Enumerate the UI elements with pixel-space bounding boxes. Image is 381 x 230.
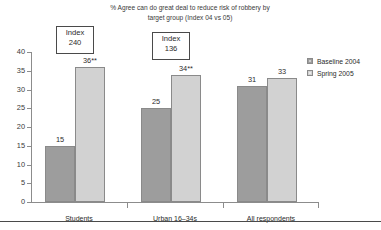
plot-area: 0510152025303540 1536**2534**3133 Studen… xyxy=(31,52,319,203)
bar-spring xyxy=(75,67,105,202)
y-tick-label: 30 xyxy=(17,85,25,94)
chart-title: % Agree can do great deal to reduce risk… xyxy=(60,3,320,22)
bar-value-label: 34** xyxy=(179,64,193,73)
bar-value-label: 33 xyxy=(278,67,286,76)
index-callout-value: 136 xyxy=(153,44,189,54)
x-axis-line xyxy=(31,202,319,203)
legend-item-baseline: Baseline 2004 xyxy=(307,56,360,66)
x-axis-tick xyxy=(127,203,128,208)
bar-value-label: 31 xyxy=(248,75,256,84)
bottom-divider xyxy=(0,221,381,222)
y-tick-label: 15 xyxy=(17,141,25,150)
chart-title-line-2: target group (Index 04 vs 05) xyxy=(148,14,233,21)
legend-label: Baseline 2004 xyxy=(317,58,360,65)
bar-baseline xyxy=(141,108,171,202)
index-callout-urban: Index 136 xyxy=(152,32,190,60)
y-tick-label: 40 xyxy=(17,47,25,56)
y-tick-label: 20 xyxy=(17,122,25,131)
y-tick-label: 0 xyxy=(21,197,25,206)
legend-item-spring: Spring 2005 xyxy=(307,68,360,78)
bar-value-label: 36** xyxy=(83,56,97,65)
y-tick-label: 10 xyxy=(17,160,25,169)
index-callout-label: Index xyxy=(153,34,189,44)
index-callout-students: Index 240 xyxy=(56,26,94,54)
y-tick-mark xyxy=(27,202,31,203)
legend-swatch-icon xyxy=(307,70,313,76)
bar-spring xyxy=(267,78,297,202)
y-axis-line xyxy=(31,52,32,203)
bar-baseline xyxy=(237,86,267,202)
x-axis-tick xyxy=(223,203,224,208)
y-tick-mark xyxy=(27,90,31,91)
y-tick-mark xyxy=(27,183,31,184)
y-tick-mark xyxy=(27,146,31,147)
index-callout-value: 240 xyxy=(57,38,93,48)
y-tick-mark xyxy=(27,108,31,109)
y-tick-mark xyxy=(27,165,31,166)
y-tick-label: 5 xyxy=(21,178,25,187)
x-axis-tick xyxy=(318,203,319,208)
y-tick-mark xyxy=(27,52,31,53)
y-tick-label: 25 xyxy=(17,103,25,112)
bar-value-label: 25 xyxy=(152,97,160,106)
y-tick-label: 35 xyxy=(17,66,25,75)
legend-label: Spring 2005 xyxy=(317,70,354,77)
legend-swatch-icon xyxy=(307,58,313,64)
chart-title-line-1: % Agree can do great deal to reduce risk… xyxy=(110,4,269,11)
bar-spring xyxy=(171,75,201,203)
chart-legend: Baseline 2004 Spring 2005 xyxy=(307,56,360,80)
y-tick-mark xyxy=(27,127,31,128)
y-tick-mark xyxy=(27,71,31,72)
index-callout-label: Index xyxy=(57,28,93,38)
bar-value-label: 15 xyxy=(56,135,64,144)
bar-baseline xyxy=(45,146,75,202)
